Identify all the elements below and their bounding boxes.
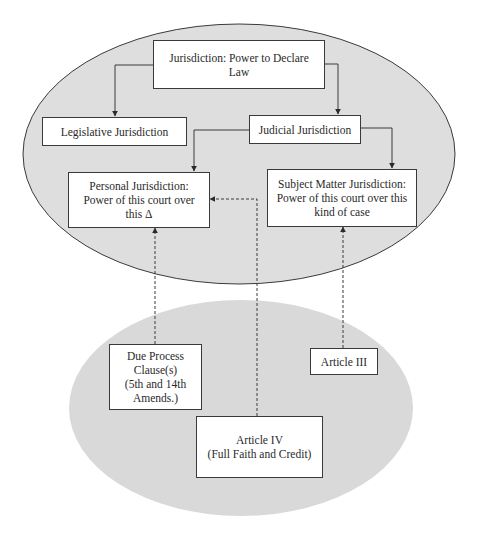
node-personal-jurisdiction: Personal Jurisdiction: Power of this cou…	[68, 172, 210, 228]
node-subject-matter-jurisdiction: Subject Matter Jurisdiction: Power of th…	[267, 169, 417, 227]
node-legislative-jurisdiction: Legislative Jurisdiction	[42, 117, 187, 146]
node-root-jurisdiction: Jurisdiction: Power to Declare Law	[153, 40, 325, 89]
node-article-iv: Article IV (Full Faith and Credit)	[196, 416, 323, 478]
node-article-iii: Article III	[310, 348, 378, 375]
node-judicial-jurisdiction: Judicial Jurisdiction	[249, 115, 361, 144]
node-due-process: Due Process Clause(s) (5th and 14th Amen…	[109, 344, 202, 410]
